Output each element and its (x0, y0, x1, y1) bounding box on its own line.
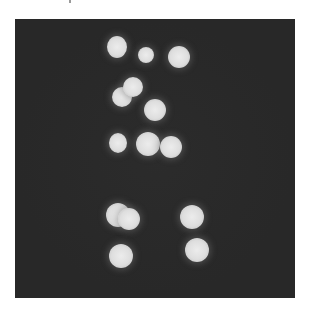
fluorescent-spot (160, 136, 182, 158)
top-mark (69, 0, 71, 3)
fluorescent-spot (185, 238, 209, 262)
fluorescent-spot (109, 133, 127, 153)
fluorescent-spot (136, 132, 160, 156)
fluorescent-spot (168, 46, 190, 68)
fluorescent-spot (109, 244, 133, 268)
microscopy-image-panel (15, 19, 295, 298)
fluorescent-spot (180, 205, 204, 229)
fluorescent-spot (138, 47, 154, 63)
fluorescent-spot (123, 77, 143, 97)
fluorescent-spot (107, 36, 127, 58)
fluorescent-spot (118, 208, 140, 230)
fluorescent-spot (144, 99, 166, 121)
